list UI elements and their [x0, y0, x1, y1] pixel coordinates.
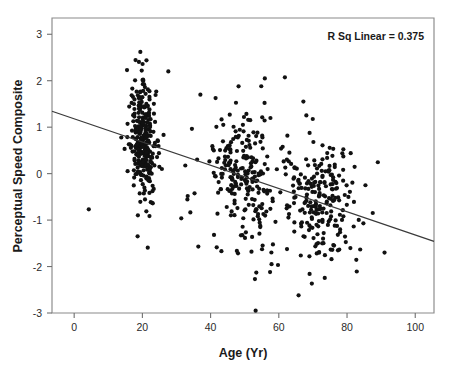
data-point: [320, 174, 324, 178]
data-point: [136, 153, 140, 157]
data-point: [130, 93, 134, 97]
data-point: [361, 221, 365, 225]
data-point: [143, 197, 147, 201]
data-point: [337, 174, 341, 178]
data-point: [245, 138, 249, 142]
data-point: [216, 156, 220, 160]
data-point: [152, 163, 156, 167]
x-tick-label: 80: [341, 321, 353, 333]
data-point: [138, 200, 142, 204]
data-point: [251, 203, 255, 207]
data-point: [314, 203, 318, 207]
data-point: [325, 199, 329, 203]
data-point: [133, 124, 137, 128]
data-point: [129, 146, 133, 150]
data-point: [143, 126, 147, 130]
data-point: [221, 123, 225, 127]
data-point: [151, 201, 155, 205]
data-point: [136, 111, 140, 115]
data-point: [239, 177, 243, 181]
data-point: [136, 213, 140, 217]
data-point: [137, 119, 141, 123]
data-point: [286, 216, 290, 220]
data-point: [330, 154, 334, 158]
data-point: [243, 236, 247, 240]
data-point: [315, 171, 319, 175]
data-point: [132, 168, 136, 172]
data-point: [251, 217, 255, 221]
data-point: [271, 242, 275, 246]
data-point: [303, 200, 307, 204]
data-point: [139, 96, 143, 100]
data-point: [345, 203, 349, 207]
data-point: [304, 157, 308, 161]
data-point: [289, 162, 293, 166]
data-point: [234, 101, 238, 105]
data-point: [147, 171, 151, 175]
data-point: [146, 162, 150, 166]
data-point: [328, 146, 332, 150]
data-point: [341, 168, 345, 172]
data-point: [150, 189, 154, 193]
data-point: [292, 220, 296, 224]
data-point: [306, 179, 310, 183]
data-point: [228, 159, 232, 163]
data-point: [371, 211, 375, 215]
data-point: [198, 93, 202, 97]
data-point: [354, 258, 358, 262]
data-point: [141, 89, 145, 93]
y-tick-label: 1: [36, 121, 42, 133]
data-point: [220, 175, 224, 179]
data-point: [345, 183, 349, 187]
data-point: [268, 207, 272, 211]
data-point: [331, 182, 335, 186]
data-point: [211, 147, 215, 151]
data-point: [250, 235, 254, 239]
data-point: [142, 82, 146, 86]
data-point: [259, 84, 263, 88]
y-tick-label: 2: [36, 75, 42, 87]
data-point: [262, 101, 266, 105]
data-point: [153, 120, 157, 124]
data-point: [240, 141, 244, 145]
data-point: [145, 135, 149, 139]
data-point: [254, 270, 258, 274]
data-point: [213, 174, 217, 178]
data-point: [254, 134, 258, 138]
data-point: [323, 253, 327, 257]
data-point: [309, 225, 313, 229]
data-point: [207, 159, 211, 163]
x-tick-label: 20: [137, 321, 149, 333]
data-point: [233, 180, 237, 184]
data-point: [258, 225, 262, 229]
data-point: [153, 93, 157, 97]
data-point: [363, 183, 367, 187]
data-point: [303, 176, 307, 180]
data-point: [317, 193, 321, 197]
data-point: [137, 100, 141, 104]
data-point: [244, 145, 248, 149]
data-point: [234, 129, 238, 133]
data-point: [249, 165, 253, 169]
data-point: [303, 211, 307, 215]
data-point: [136, 148, 140, 152]
data-point: [268, 189, 272, 193]
data-point: [231, 137, 235, 141]
data-point: [218, 148, 222, 152]
data-point: [313, 180, 317, 184]
data-point: [228, 143, 232, 147]
data-point: [321, 207, 325, 211]
data-point: [292, 175, 296, 179]
data-point: [251, 130, 255, 134]
data-point: [141, 79, 145, 83]
data-point: [247, 203, 251, 207]
data-point: [139, 136, 143, 140]
data-point: [344, 240, 348, 244]
data-point: [266, 167, 270, 171]
data-point: [239, 233, 243, 237]
data-point: [166, 69, 170, 73]
data-point: [140, 111, 144, 115]
data-point: [232, 201, 236, 205]
data-point: [148, 117, 152, 121]
data-point: [303, 186, 307, 190]
